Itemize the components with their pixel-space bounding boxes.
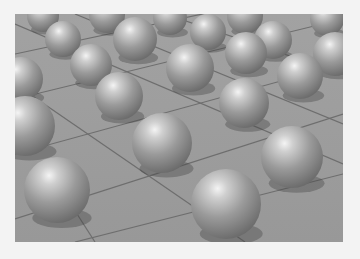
sphere	[191, 169, 261, 239]
sphere	[95, 72, 143, 120]
sphere	[190, 14, 226, 50]
sphere	[219, 78, 269, 128]
sphere	[24, 157, 90, 223]
sphere	[113, 17, 157, 61]
sphere	[225, 32, 267, 74]
sphere	[261, 126, 323, 188]
sphere-scene	[15, 14, 343, 242]
sphere	[132, 113, 192, 173]
render-image	[15, 14, 343, 242]
sphere	[277, 53, 323, 99]
sphere	[166, 44, 214, 92]
